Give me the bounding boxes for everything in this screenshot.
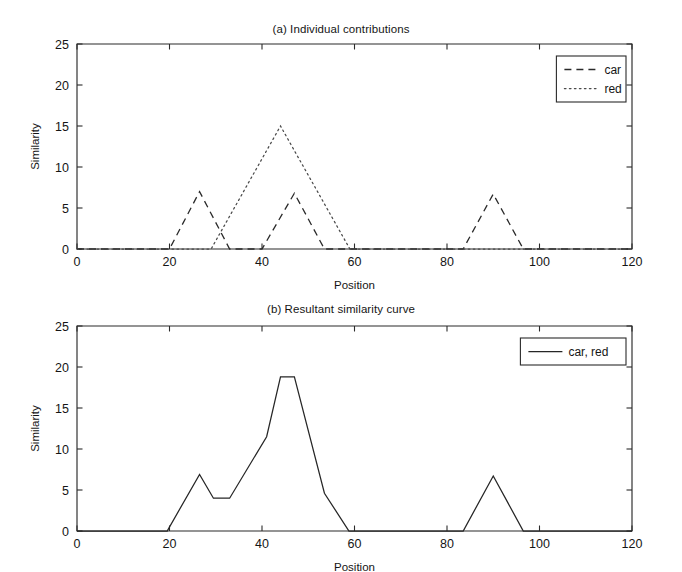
series-line-red <box>77 126 632 249</box>
series-line-car-red <box>77 377 632 531</box>
panel-b-x-tick-labels: 020406080100120 <box>74 537 643 551</box>
panel-a-legend: carred <box>556 56 626 102</box>
x-tick-label: 80 <box>440 255 454 269</box>
y-tick-label: 15 <box>55 402 69 416</box>
y-tick-label: 10 <box>55 443 69 457</box>
figure-container: (a) Individual contributions 02040608010… <box>0 0 682 572</box>
panel-b-legend: car, red <box>520 338 626 365</box>
y-tick-label: 20 <box>55 79 69 93</box>
panel-a-y-tick-labels: 0510152025 <box>55 38 69 257</box>
x-tick-label: 60 <box>348 537 362 551</box>
y-tick-label: 25 <box>55 320 69 334</box>
x-tick-label: 100 <box>529 255 550 269</box>
x-tick-label: 40 <box>255 255 269 269</box>
panel-b-y-axis-label: Similarity <box>29 405 41 452</box>
panel-a-x-ticks <box>77 44 632 249</box>
panel-a-y-ticks <box>77 44 632 249</box>
x-tick-label: 40 <box>255 537 269 551</box>
panel-a-y-axis-label: Similarity <box>29 123 41 170</box>
legend-label: car, red <box>568 345 608 359</box>
legend-label: car <box>604 63 621 77</box>
panel-a-x-tick-labels: 020406080100120 <box>74 255 643 269</box>
x-tick-label: 20 <box>163 537 177 551</box>
x-tick-label: 120 <box>622 255 643 269</box>
x-tick-label: 80 <box>440 537 454 551</box>
y-tick-label: 5 <box>62 202 69 216</box>
y-tick-label: 0 <box>62 525 69 539</box>
y-tick-label: 5 <box>62 484 69 498</box>
y-tick-label: 20 <box>55 361 69 375</box>
chart-panel-b: (b) Resultant similarity curve 020406080… <box>0 282 682 572</box>
panel-a-series-group <box>77 126 632 249</box>
panel-a-plot: 020406080100120 0510152025 carred Positi… <box>0 0 682 290</box>
chart-panel-a: (a) Individual contributions 02040608010… <box>0 0 682 290</box>
panel-b-x-axis-label: Position <box>334 561 375 572</box>
panel-b-series-group <box>77 377 632 531</box>
panel-b-y-tick-labels: 0510152025 <box>55 320 69 539</box>
x-tick-label: 0 <box>74 255 81 269</box>
series-line-car <box>77 192 632 249</box>
y-tick-label: 0 <box>62 243 69 257</box>
y-tick-label: 15 <box>55 120 69 134</box>
x-tick-label: 120 <box>622 537 643 551</box>
legend-label: red <box>604 82 621 96</box>
panel-a-axes-frame <box>77 44 632 249</box>
x-tick-label: 100 <box>529 537 550 551</box>
x-tick-label: 60 <box>348 255 362 269</box>
y-tick-label: 25 <box>55 38 69 52</box>
y-tick-label: 10 <box>55 161 69 175</box>
panel-b-plot: 020406080100120 0510152025 car, red Posi… <box>0 282 682 572</box>
x-tick-label: 0 <box>74 537 81 551</box>
x-tick-label: 20 <box>163 255 177 269</box>
